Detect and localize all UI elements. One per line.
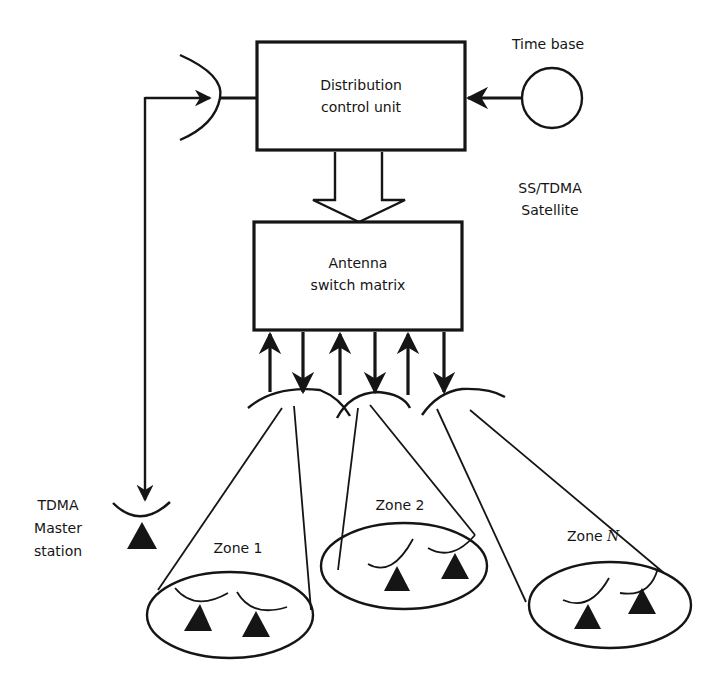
master-label-line1: TDMA: [37, 497, 79, 513]
block-arrow-icon: [313, 152, 405, 222]
master-station: TDMA Master station: [34, 497, 170, 559]
ground-station-icon: [175, 588, 228, 631]
zone-1: Zone 1: [147, 406, 313, 658]
master-label-line3: station: [34, 543, 82, 559]
beam-antenna-3-icon: [422, 389, 505, 415]
ground-station-icon: [237, 592, 287, 637]
ground-station-icon: [563, 578, 609, 629]
master-link: [145, 97, 210, 500]
asm-label-line2: switch matrix: [311, 277, 406, 293]
time-base: Time base: [468, 36, 584, 128]
time-base-label: Time base: [511, 36, 584, 52]
ss-tdma-diagram: Distribution control unit Time base SS/T…: [0, 0, 723, 688]
distribution-control-unit: Distribution control unit: [257, 42, 465, 150]
zone-1-label: Zone 1: [214, 540, 263, 556]
master-station-icon: [127, 522, 157, 549]
time-base-circle: [522, 68, 582, 128]
dcu-label-line2: control unit: [321, 99, 402, 115]
asm-label-line1: Antenna: [329, 255, 388, 271]
master-label-line2: Master: [34, 520, 82, 536]
dcu-label-line1: Distribution: [320, 77, 402, 93]
ground-station-icon: [368, 539, 413, 591]
zone-n: Zone N: [437, 409, 691, 648]
master-dish-icon: [113, 502, 170, 516]
ground-station-icon: [428, 535, 475, 579]
beam-antenna-1-icon: [248, 389, 350, 416]
antenna-switch-matrix: Antenna switch matrix: [254, 222, 462, 330]
satellite-label-line1: SS/TDMA: [518, 180, 582, 196]
zone-2: Zone 2: [321, 405, 487, 609]
switch-matrix-connections: [270, 332, 444, 395]
ground-station-icon: [620, 568, 658, 614]
satellite-label-line2: Satellite: [521, 202, 578, 218]
zone-2-label: Zone 2: [376, 497, 425, 513]
zone-n-label: Zone N: [567, 528, 620, 544]
